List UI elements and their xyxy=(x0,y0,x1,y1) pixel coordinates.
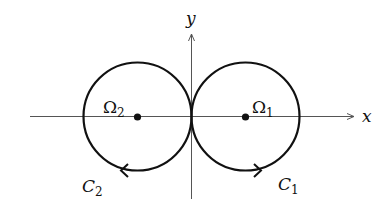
omega1-center-dot xyxy=(242,113,249,120)
c2-label: C2 xyxy=(82,176,103,199)
omega1-label: Ω1 xyxy=(252,97,274,120)
omega2-center-dot xyxy=(134,113,141,120)
y-axis-label: y xyxy=(185,8,196,28)
c1-label: C1 xyxy=(278,174,299,197)
omega2-label: Ω2 xyxy=(103,97,125,120)
two-circles-diagram: x y Ω2 C2 Ω1 C1 xyxy=(0,0,387,206)
x-axis-label: x xyxy=(362,106,372,126)
